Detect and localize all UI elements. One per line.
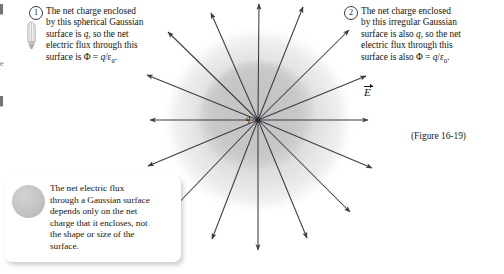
callout-2-text: The net charge enclosed by this irregula… [361,6,496,66]
callout-2-line-1: The net charge enclosed [361,6,496,17]
callout-number-1: 1 [29,6,43,20]
callout-1-text: The net charge enclosed by this spherica… [46,6,174,66]
callout-2-line-5: surface is also Φ = q/ε0. [361,52,496,66]
figure-reference: (Figure 16-19) [411,131,466,141]
callout-1-line-4: electric flux through this [46,40,174,51]
note-icon-background [12,185,45,218]
note-line-3: depends only on the net [50,206,176,218]
callout-number-2: 2 [344,6,358,20]
callout-1-line-1: The net charge enclosed [46,6,174,17]
concept-note-box: The net electric flux through a Gaussian… [5,176,181,262]
electric-field-vector-label: E [364,84,373,98]
note-line-2: through a Gaussian surface [50,195,176,207]
callout-1-line-3: surface is q, so the net [46,29,174,40]
page-edge-fragment: e [0,58,4,68]
callout-irregular-surface: 2 The net charge enclosed by this irregu… [344,6,496,66]
point-charge [255,117,260,122]
figure-stage: 1 The net charge enclosed by this spheri… [0,0,504,274]
callout-2-line-4: electric flux through this [361,40,496,51]
page-edge-fragment: ▌ [0,4,6,14]
note-text: The net electric flux through a Gaussian… [50,183,176,253]
charge-label: q [246,113,250,123]
callout-1-line-2: by this spherical Gaussian [46,17,174,28]
page-edge-fragment: ▌ [0,96,6,106]
vector-arrow-icon [364,84,373,88]
note-line-4: charge that it encloses, not [50,218,176,230]
callout-1-line-5: surface is Φ = q/ε0. [46,52,174,66]
callout-spherical-surface: 1 The net charge enclosed by this spheri… [29,6,174,66]
callout-2-line-2: by this irregular Gaussian [361,17,496,28]
note-line-1: The net electric flux [50,183,176,195]
note-line-5: the shape or size of the [50,229,176,241]
note-line-6: surface. [50,241,176,253]
callout-2-line-3: surface is also q, so the net [361,29,496,40]
